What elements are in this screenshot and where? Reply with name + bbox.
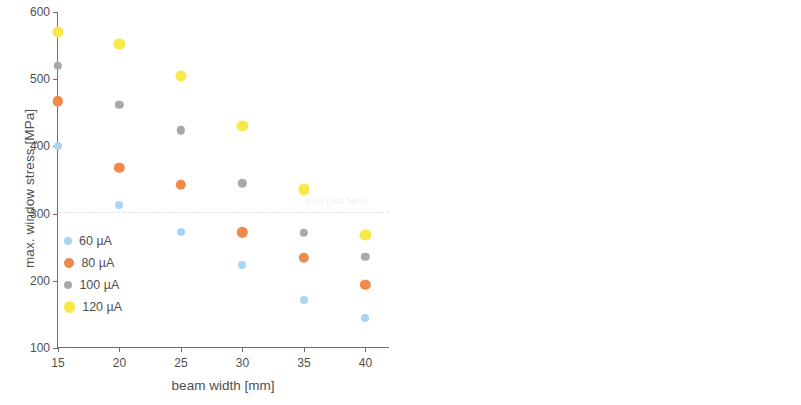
- legend-item[interactable]: 120 µA: [64, 296, 122, 318]
- legend-item-label: 100 µA: [79, 278, 119, 292]
- y-axis-tick-label: 400: [30, 139, 50, 153]
- data-point: [298, 184, 309, 195]
- x-axis-tick: [242, 347, 243, 352]
- y-axis-tick-label: 100: [30, 341, 50, 355]
- data-point: [238, 179, 246, 187]
- data-point: [177, 126, 185, 134]
- x-axis-tick: [119, 347, 120, 352]
- data-point: [361, 252, 369, 260]
- y-axis-tick: [53, 79, 58, 80]
- y-axis-tick: [53, 281, 58, 282]
- data-point: [115, 201, 123, 209]
- data-point: [176, 180, 186, 190]
- data-point: [361, 314, 369, 322]
- data-point: [237, 121, 248, 132]
- y-axis-tick: [53, 214, 58, 215]
- x-axis-tick-label: 35: [297, 356, 310, 370]
- x-axis-tick: [58, 347, 59, 352]
- legend-swatch-icon: [64, 258, 74, 268]
- yield-reference-line: [58, 212, 389, 213]
- x-axis-tick-label: 15: [51, 356, 64, 370]
- plot-area-window-stress: 100200300400500600152025303540yield (302…: [57, 12, 389, 348]
- data-point: [114, 39, 125, 50]
- data-point: [299, 253, 309, 263]
- data-point: [54, 62, 62, 70]
- data-point: [360, 230, 371, 241]
- data-point: [300, 296, 308, 304]
- y-axis-tick-label: 200: [30, 274, 50, 288]
- legend-swatch-icon: [64, 237, 72, 245]
- x-axis-label-window-stress: beam width [mm]: [57, 378, 389, 393]
- legend-swatch-icon: [64, 301, 75, 312]
- legend-item-label: 120 µA: [82, 300, 122, 314]
- legend: 60 µA80 µA100 µA120 µA: [64, 230, 122, 318]
- x-axis-tick: [181, 347, 182, 352]
- data-point: [175, 70, 186, 81]
- legend-item[interactable]: 60 µA: [64, 230, 122, 252]
- x-axis-tick-label: 30: [236, 356, 249, 370]
- legend-item[interactable]: 100 µA: [64, 274, 122, 296]
- x-axis-tick-label: 20: [113, 356, 126, 370]
- data-point: [52, 27, 63, 38]
- data-point: [114, 163, 124, 173]
- data-point: [238, 261, 246, 269]
- y-axis-tick-label: 300: [30, 207, 50, 221]
- two-panel-scatter-figure: max. window stress [MPa] 100200300400500…: [0, 0, 801, 405]
- x-axis-tick: [365, 347, 366, 352]
- x-axis-tick-label: 40: [359, 356, 372, 370]
- data-point: [360, 280, 370, 290]
- legend-item[interactable]: 80 µA: [64, 252, 122, 274]
- y-axis-label-window-stress: max. window stress [MPa]: [22, 109, 37, 268]
- x-axis-tick-label: 25: [174, 356, 187, 370]
- legend-item-label: 80 µA: [81, 256, 114, 270]
- panel-thorium-stress: max. thorium stress [MPa] 50100150200250…: [400, 0, 801, 405]
- yield-reference-label: yield (302 MPa): [305, 196, 368, 206]
- x-axis-tick: [304, 347, 305, 352]
- y-axis-tick-label: 500: [30, 72, 50, 86]
- data-point: [300, 229, 308, 237]
- data-point: [237, 227, 247, 237]
- legend-swatch-icon: [64, 281, 72, 289]
- data-point: [177, 228, 185, 236]
- panel-window-stress: max. window stress [MPa] 100200300400500…: [0, 0, 400, 405]
- legend-item-label: 60 µA: [79, 234, 112, 248]
- data-point: [53, 96, 63, 106]
- y-axis-tick-label: 600: [30, 5, 50, 19]
- data-point: [54, 142, 62, 150]
- data-point: [115, 101, 123, 109]
- y-axis-tick: [53, 12, 58, 13]
